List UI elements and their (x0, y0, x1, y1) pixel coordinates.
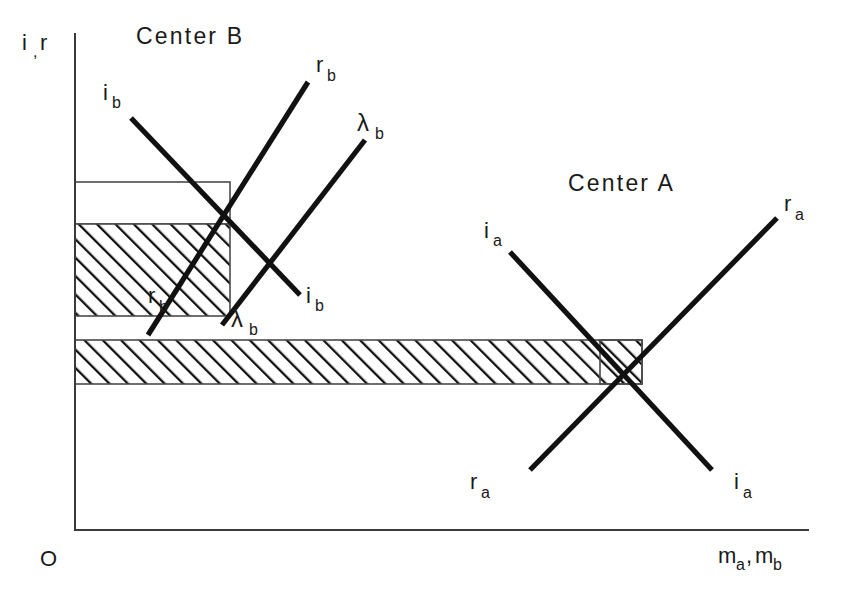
label-i-b-top-sub: b (112, 94, 121, 111)
label-r-a-bottom-base: r (470, 469, 477, 494)
x-axis-label: m a , m b (718, 543, 782, 573)
figure-canvas: Center B Center A i , r O m a , m b i b … (0, 0, 843, 598)
origin-label: O (40, 546, 57, 571)
x-axis-label-m-b-base: m (755, 543, 773, 568)
label-r-a-top-sub: a (795, 206, 804, 223)
label-i-a-bottom: i a (734, 469, 752, 501)
label-r-a-bottom-sub: a (481, 484, 490, 501)
label-r-b-inside-sub: b (159, 298, 168, 315)
y-axis-label-comma: , (33, 43, 37, 60)
label-i-a-top-base: i (484, 218, 489, 243)
label-i-b-top: i b (103, 80, 121, 111)
x-axis-label-separator: , (746, 543, 752, 568)
label-lambda-b-bottom-sub: b (249, 321, 258, 338)
label-i-a-top: i a (484, 218, 502, 249)
label-i-a-bottom-sub: a (743, 484, 752, 501)
y-axis-label: i , r (22, 30, 47, 60)
label-i-b-top-base: i (103, 80, 108, 105)
y-axis-label-i: i (22, 30, 27, 55)
y-axis-label-r: r (40, 30, 47, 55)
title-center-b: Center B (136, 23, 244, 49)
center-b-upper-box (75, 182, 230, 224)
label-lambda-b-top: λ b (357, 109, 384, 142)
label-r-b-inside-base: r (148, 283, 155, 308)
title-center-a: Center A (568, 170, 675, 196)
economics-diagram: Center B Center A i , r O m a , m b i b … (0, 0, 843, 598)
wide-hatched-band (75, 340, 642, 384)
label-r-b-top-base: r (316, 52, 323, 77)
label-r-a-top: r a (784, 191, 804, 223)
label-r-b-top: r b (316, 52, 336, 84)
x-axis-label-m-a-base: m (718, 543, 736, 568)
label-i-b-bottom-sub: b (315, 297, 324, 314)
label-lambda-b-bottom-base: λ (231, 305, 243, 332)
label-i-a-bottom-base: i (734, 469, 739, 494)
x-axis-label-m-b-sub: b (773, 556, 782, 573)
label-i-a-top-sub: a (493, 232, 502, 249)
x-axis-label-m-a-sub: a (736, 556, 745, 573)
label-lambda-b-top-base: λ (357, 109, 369, 136)
label-i-b-bottom-base: i (306, 283, 311, 308)
shaded-regions (75, 182, 642, 384)
label-lambda-b-bottom: λ b (231, 305, 258, 338)
label-i-b-bottom: i b (306, 283, 324, 314)
label-r-b-top-sub: b (327, 67, 336, 84)
label-lambda-b-top-sub: b (375, 125, 384, 142)
label-r-a-top-base: r (784, 191, 791, 216)
label-r-a-bottom: r a (470, 469, 490, 501)
